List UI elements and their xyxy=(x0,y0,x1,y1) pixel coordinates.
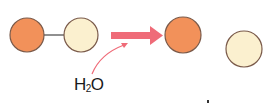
diagram-graphics xyxy=(0,0,280,103)
water-label-h: H xyxy=(74,75,86,94)
product-orange-circle xyxy=(165,17,201,53)
stray-dot xyxy=(207,100,209,103)
hydrolysis-diagram: H2O xyxy=(0,0,280,103)
reactant-cream-circle xyxy=(64,18,98,52)
reaction-arrow-head xyxy=(150,26,163,45)
product-cream-circle xyxy=(226,31,262,67)
water-input-curve xyxy=(92,45,124,74)
reactant-orange-circle xyxy=(10,18,44,52)
water-label: H2O xyxy=(74,75,104,95)
water-label-o: O xyxy=(91,75,104,94)
reaction-arrow-shaft xyxy=(111,32,151,39)
